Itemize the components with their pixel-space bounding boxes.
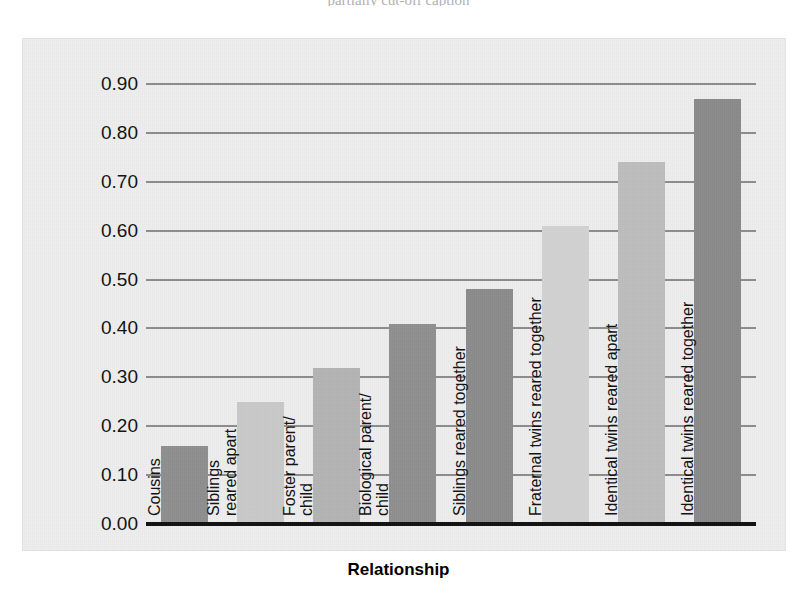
bar-category-label: Cousins: [146, 458, 163, 516]
chart-figure: 0.900.800.700.600.500.400.300.200.100.00…: [22, 38, 786, 551]
plot-area: CousinsSiblings reared apartFoster paren…: [146, 38, 772, 551]
x-axis-baseline: [146, 522, 756, 526]
y-tick-label: 0.20: [82, 415, 138, 437]
y-tick-label: 0.50: [82, 269, 138, 291]
y-axis-tick-labels: 0.900.800.700.600.500.400.300.200.100.00: [78, 38, 138, 551]
bar: Biological parent/ child: [389, 324, 436, 524]
bar-category-label: Biological parent/ child: [357, 393, 391, 516]
x-axis-title: Relationship: [0, 560, 797, 580]
bar: Identical twins reared together: [694, 99, 741, 524]
bar-category-label: Siblings reared together: [451, 346, 468, 516]
y-tick-label: 0.30: [82, 366, 138, 388]
y-tick-label: 0.10: [82, 464, 138, 486]
bar-category-label: Siblings reared apart: [205, 429, 239, 516]
bar-category-label: Identical twins reared together: [679, 302, 696, 516]
bar-series: CousinsSiblings reared apartFoster paren…: [146, 38, 756, 551]
bar: Siblings reared apart: [237, 402, 284, 524]
bar-category-label: Fraternal twins reared together: [527, 297, 544, 516]
bar-category-label: Identical twins reared apart: [603, 324, 620, 516]
bar: Siblings reared together: [466, 289, 513, 524]
bar: Identical twins reared apart: [618, 162, 665, 524]
bar-category-label: Foster parent/ child: [281, 416, 315, 516]
bar: Cousins: [161, 446, 208, 524]
y-tick-label: 0.00: [82, 513, 138, 535]
bar: Fraternal twins reared together: [542, 226, 589, 524]
y-tick-label: 0.60: [82, 220, 138, 242]
bar: Foster parent/ child: [313, 368, 360, 524]
clipped-caption-text: partially cut-off caption: [0, 0, 797, 6]
y-tick-label: 0.90: [82, 73, 138, 95]
y-tick-label: 0.40: [82, 317, 138, 339]
y-tick-label: 0.80: [82, 122, 138, 144]
y-tick-label: 0.70: [82, 171, 138, 193]
